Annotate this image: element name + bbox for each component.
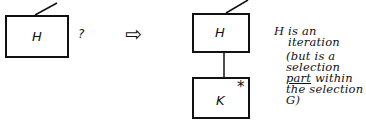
transform-arrow-icon: ⇨ xyxy=(125,22,142,46)
iteration-asterisk-marker: * xyxy=(237,78,245,96)
note-line-2: iteration xyxy=(274,37,363,48)
incoming-line-right xyxy=(226,0,248,13)
incoming-line-left xyxy=(35,3,57,15)
note-line-7: G) xyxy=(274,95,363,106)
question-mark: ? xyxy=(78,27,84,41)
box-h-before: H xyxy=(5,15,69,58)
annotation-note: H is an iteration (but is a selection pa… xyxy=(274,26,363,106)
box-k: K * xyxy=(192,77,250,119)
box-h-after-label: H xyxy=(215,25,225,40)
box-h-after: H xyxy=(192,13,250,53)
box-k-label: K xyxy=(216,93,225,108)
box-h-before-label: H xyxy=(32,29,42,44)
